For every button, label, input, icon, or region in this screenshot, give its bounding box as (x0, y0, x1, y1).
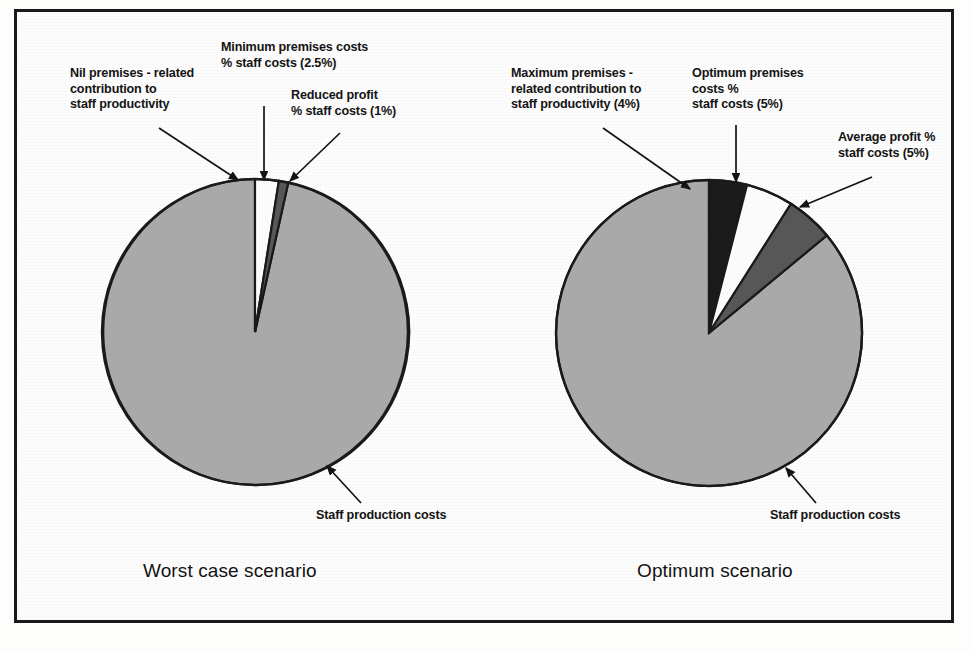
right-arrow-average-profit (800, 177, 872, 207)
label-average-profit: Average profit % staff costs (5%) (838, 130, 968, 161)
left-pie-chart (102, 179, 409, 485)
left-arrow-staff-production (327, 466, 361, 503)
right-arrow-staff-production (786, 468, 816, 503)
left-arrow-reduced-profit (290, 133, 340, 181)
label-reduced-profit: Reduced profit % staff costs (1%) (291, 88, 451, 119)
label-minimum-premises: Minimum premises costs % staff costs (2.… (221, 40, 421, 71)
left-scenario-title: Worst case scenario (143, 560, 317, 582)
right-arrow-maximum-premises (603, 128, 690, 189)
right-pie-chart (556, 180, 862, 486)
left-arrow-nil-premises (159, 128, 238, 180)
label-nil-premises: Nil premises - related contribution to s… (70, 66, 230, 113)
label-optimum-premises: Optimum premises costs % staff costs (5%… (692, 66, 842, 113)
label-maximum-premises: Maximum premises - related contribution … (511, 66, 686, 113)
label-right-staff-production: Staff production costs (770, 508, 972, 524)
label-left-staff-production: Staff production costs (316, 508, 536, 524)
right-scenario-title: Optimum scenario (637, 560, 793, 582)
figure-root: Nil premises - related contribution to s… (0, 0, 972, 651)
